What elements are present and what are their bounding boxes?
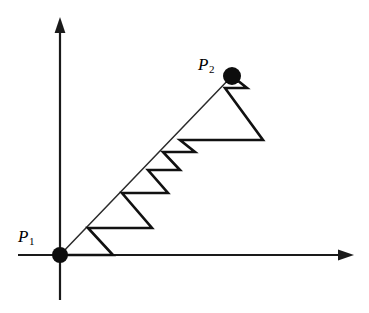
point-p2-marker [223, 67, 241, 85]
point-p1-label-sub: 1 [29, 235, 35, 247]
y-axis-arrow-icon [55, 17, 66, 33]
point-p1-marker [52, 247, 68, 263]
figure-canvas: P1 P2 [0, 0, 369, 313]
x-axis-arrow-icon [338, 250, 354, 261]
staircase-polyline [60, 76, 263, 255]
point-p2-label: P2 [198, 56, 214, 73]
point-p1-label: P1 [18, 228, 34, 245]
point-p1-label-base: P [18, 227, 28, 246]
point-p2-label-base: P [198, 55, 208, 74]
point-p2-label-sub: 2 [209, 63, 215, 75]
diagram-svg [0, 0, 369, 313]
